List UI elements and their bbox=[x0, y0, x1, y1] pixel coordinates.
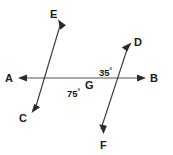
arrowhead-B-icon bbox=[137, 74, 146, 81]
geometry-diagram-canvas: A B C D E F G 35° 75° bbox=[0, 0, 173, 155]
point-label-D: D bbox=[134, 36, 142, 48]
degree-symbol-icon: ° bbox=[110, 67, 113, 74]
point-label-A: A bbox=[5, 72, 13, 84]
arrowhead-F-icon bbox=[99, 124, 107, 134]
angle-label-75: 75° bbox=[67, 88, 81, 99]
point-label-E: E bbox=[50, 8, 57, 20]
point-label-F: F bbox=[100, 139, 107, 151]
arrowhead-C-icon bbox=[32, 104, 41, 113]
angle-label-35: 35° bbox=[99, 67, 113, 78]
degree-symbol-icon: ° bbox=[78, 88, 81, 95]
angle-value-35: 35 bbox=[99, 67, 110, 78]
point-label-B: B bbox=[150, 72, 158, 84]
line-EC bbox=[32, 20, 66, 114]
segment-EC bbox=[35, 24, 61, 110]
line-DF bbox=[99, 43, 131, 135]
point-label-G: G bbox=[85, 79, 94, 91]
point-label-C: C bbox=[19, 112, 27, 124]
segment-DF bbox=[101, 47, 128, 130]
line-AB bbox=[18, 74, 146, 81]
arrowhead-A-icon bbox=[18, 74, 27, 81]
arrowhead-D-icon bbox=[122, 43, 132, 52]
geometry-svg: A B C D E F G 35° 75° bbox=[0, 0, 173, 155]
angle-value-75: 75 bbox=[67, 88, 78, 99]
